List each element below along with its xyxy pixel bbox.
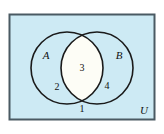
region-count-outside: 1: [80, 103, 85, 114]
region-count-a-intersect-b: 3: [80, 62, 85, 73]
universe-label: U: [140, 104, 149, 116]
set-b-label: B: [116, 49, 123, 61]
set-a-label: A: [42, 49, 50, 61]
venn-diagram-canvas: A B 2 3 4 1 U: [0, 0, 164, 134]
region-count-a-only: 2: [55, 81, 60, 92]
region-count-b-only: 4: [105, 80, 110, 91]
venn-diagram-figure: A B 2 3 4 1 U: [0, 0, 164, 134]
